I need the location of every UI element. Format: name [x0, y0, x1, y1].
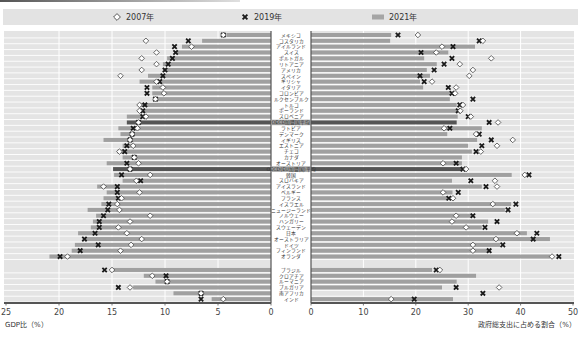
legend-label-2019: 2019年	[254, 12, 282, 22]
category-label: インド	[284, 297, 299, 302]
bar-2021-left-30	[88, 208, 271, 212]
bar-2021-left-39	[113, 268, 271, 272]
category-label: トルコ	[284, 103, 299, 108]
category-label: スペイン	[281, 74, 301, 79]
bar-2021-left-31	[96, 214, 271, 218]
bar-2021-right-27	[311, 190, 452, 194]
tick-label-left: 0	[268, 308, 273, 317]
tick-label-right: 40	[516, 308, 526, 317]
bar-2021-right-11	[311, 97, 450, 101]
bar-2021-left-35	[86, 237, 272, 241]
bar-2021-right-4	[311, 56, 424, 60]
tick-label-left: 25	[1, 308, 11, 317]
bar-2021-right-44	[311, 297, 453, 301]
bar-2021-right-42	[311, 285, 442, 289]
bar-2021-left-22	[107, 161, 271, 165]
bar-2021-left-11	[157, 97, 271, 101]
tick-label-right: 50	[568, 308, 578, 317]
bar-2021-left-19	[123, 144, 271, 148]
category-label: スイス	[284, 50, 299, 55]
bar-2021-right-37	[311, 249, 490, 253]
tick-label-right: 30	[463, 308, 473, 317]
bar-2021-right-3	[311, 50, 448, 54]
category-label: ギリシャ	[281, 79, 301, 84]
bar-2021-left-7	[148, 74, 271, 78]
bar-2021-right-32	[311, 220, 488, 224]
bar-2021-left-10	[152, 91, 271, 95]
bar-2021-left-32	[93, 220, 271, 224]
bar-2021-left-1	[202, 39, 271, 43]
category-label: イギリス	[281, 138, 301, 143]
bar-2021-left-5	[163, 62, 271, 66]
bar-2021-right-33	[311, 225, 482, 229]
bar-2021-right-8	[311, 80, 420, 84]
bar-2021-right-20	[311, 150, 472, 154]
bar-2021-right-40	[311, 274, 476, 278]
bar-2021-right-29	[311, 202, 511, 206]
bar-2021-left-27	[107, 190, 271, 194]
bar-2021-left-9	[152, 85, 271, 89]
tick-label-right: 10	[358, 308, 368, 317]
legend-label-2021: 2021年	[389, 12, 417, 22]
bar-2021-left-16	[118, 126, 271, 130]
bar-2021-right-41	[311, 280, 457, 284]
legend: 2007年 2019年 2021年	[3, 9, 578, 25]
bar-2021-right-26	[311, 185, 482, 189]
bar-2021-left-42	[133, 285, 271, 289]
bar-2021-right-6	[311, 68, 427, 72]
bar-2021-right-17	[311, 132, 447, 136]
bar-2021-right-14	[311, 115, 458, 119]
tick-label-right: 20	[411, 308, 421, 317]
bar-2021-right-28	[311, 196, 447, 200]
bar-2021-left-37	[72, 249, 271, 253]
bar-2021-left-41	[155, 280, 271, 284]
category-label: メキシコ	[281, 33, 301, 38]
bar-2021-left-29	[101, 202, 271, 206]
bar-2021-left-2	[182, 45, 271, 49]
bar-2021-left-20	[117, 150, 271, 154]
bar-2021-left-6	[163, 68, 271, 72]
bar-2021-right-25	[311, 179, 452, 183]
bar-2021-left-23	[113, 167, 271, 171]
tick-label-left: 15	[107, 308, 117, 317]
bar-2021-right-30	[311, 208, 505, 212]
top-rule	[0, 0, 240, 2]
bar-2021-right-9	[311, 85, 423, 89]
bar-2021-left-36	[75, 243, 271, 247]
bar-2021-right-22	[311, 161, 462, 165]
chart: 2007年 2019年 2021年 メキシココスタリカアイルランドスイスポルトガ…	[0, 0, 582, 337]
bar-2021-left-4	[167, 56, 271, 60]
left-axis-title: GDP比（%）	[5, 320, 48, 329]
legend-label-2007: 2007年	[126, 12, 154, 22]
bar-2021-right-1	[311, 39, 390, 43]
bar-2021-right-12	[311, 103, 457, 107]
category-label: ドイツ	[284, 243, 299, 248]
bar-2021-left-34	[78, 231, 271, 235]
category-labels: メキシココスタリカアイルランドスイスポルトガルリトアニアアメリカスペインギリシャ…	[266, 33, 315, 302]
bar-2021-left-24	[114, 173, 271, 177]
bar-2021-left-25	[123, 179, 271, 183]
bar-2021-left-43	[173, 291, 271, 295]
legend-background	[3, 9, 578, 25]
bar-2021-right-23	[311, 167, 462, 171]
bar-2021-right-16	[311, 126, 482, 130]
bar-2021-left-26	[97, 185, 271, 189]
bar-2021-left-3	[177, 50, 271, 54]
right-panel-government-expenditure-share	[311, 31, 574, 303]
bar-2021-right-21	[311, 155, 462, 159]
bar-2021-left-21	[123, 155, 271, 159]
left-panel-gdp-share	[4, 31, 271, 303]
bar-2021-right-19	[311, 144, 468, 148]
bar-2021-left-13	[140, 109, 271, 113]
bar-2021-right-31	[311, 214, 472, 218]
bar-2021-left-12	[140, 103, 271, 107]
legend-bar-swatch	[372, 15, 384, 20]
bar-2021-left-0	[226, 33, 271, 37]
bar-2021-right-13	[311, 109, 457, 113]
tick-label-left: 10	[160, 308, 170, 317]
bar-2021-right-18	[311, 138, 477, 142]
bar-2021-right-39	[311, 268, 432, 272]
tick-label-left: 20	[54, 308, 64, 317]
bar-2021-right-15	[311, 120, 457, 124]
bar-2021-left-38	[49, 255, 271, 259]
